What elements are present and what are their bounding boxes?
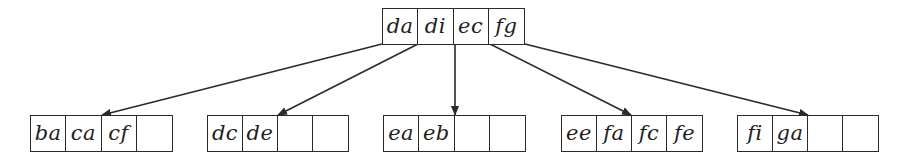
leaf-5-key-fi: fi: [738, 116, 773, 151]
leaf-4-key-fa: fa: [597, 116, 632, 151]
leaf-5-empty-slot: [843, 116, 878, 151]
leaf-5-key-ga: ga: [773, 116, 808, 151]
leaf-3-key-eb: eb: [419, 116, 454, 151]
arrow-root-to-leaf-1: [102, 44, 382, 115]
leaf-4-key-fe: fe: [667, 116, 702, 151]
arrow-root-to-leaf-5: [525, 44, 808, 115]
leaf-3-empty-slot: [455, 116, 490, 151]
leaf-4-key-fc: fc: [632, 116, 667, 151]
leaf-2-key-dc: dc: [208, 116, 243, 151]
leaf-1-key-ba: ba: [31, 116, 66, 151]
leaf-node-1: bacacf: [30, 115, 173, 152]
leaf-node-2: dcde: [207, 115, 349, 152]
root-key-da: da: [383, 9, 418, 44]
leaf-3-key-ea: ea: [384, 116, 419, 151]
root-key-di: di: [418, 9, 453, 44]
leaf-4-key-ee: ee: [562, 116, 597, 151]
leaf-2-empty-slot: [278, 116, 313, 151]
root-key-fg: fg: [489, 9, 524, 44]
arrow-root-to-leaf-2: [278, 44, 418, 115]
leaf-node-3: eaeb: [383, 115, 526, 152]
leaf-node-4: eefafcfe: [561, 115, 703, 152]
root-key-ec: ec: [454, 9, 489, 44]
leaf-1-key-ca: ca: [66, 116, 101, 151]
leaf-1-empty-slot: [137, 116, 172, 151]
leaf-1-key-cf: cf: [102, 116, 137, 151]
leaf-2-empty-slot: [313, 116, 348, 151]
root-node: dadiecfg: [382, 8, 525, 45]
leaf-2-key-de: de: [243, 116, 278, 151]
b-tree-diagram: dadiecfg bacacfdcdeeaebeefafcfefiga: [0, 0, 913, 166]
leaf-node-5: figa: [737, 115, 879, 152]
leaf-3-empty-slot: [490, 116, 525, 151]
leaf-5-empty-slot: [808, 116, 843, 151]
arrow-root-to-leaf-4: [490, 44, 631, 115]
